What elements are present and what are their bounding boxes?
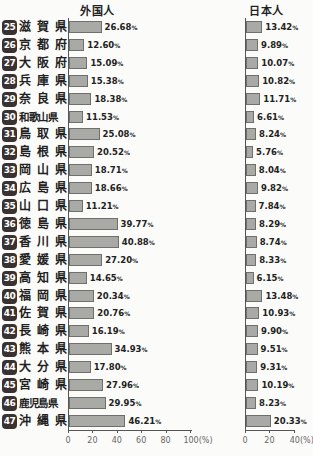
- prefecture-number-badge: 34: [2, 181, 17, 196]
- prefecture-label: 兵庫県: [19, 73, 67, 90]
- prefecture-number-badge: 31: [2, 127, 17, 142]
- foreign-value-label: 17.80%: [94, 361, 127, 374]
- prefecture-number-badge: 29: [2, 92, 17, 107]
- japanese-value-label: 8.04%: [259, 164, 286, 177]
- foreign-value-label: 25.08%: [103, 128, 136, 141]
- axis-tick-mark: [117, 430, 118, 433]
- axis-tick-mark: [190, 430, 191, 433]
- chart-row: 38愛媛県27.20%8.33%: [0, 251, 313, 270]
- prefecture-number-badge: 25: [2, 20, 17, 35]
- prefecture-number-badge: 45: [2, 378, 17, 393]
- prefecture-label: 大分県: [19, 359, 67, 376]
- japanese-value-label: 8.33%: [259, 254, 286, 267]
- foreign-value-label: 14.65%: [90, 272, 123, 285]
- foreign-value-label: 16.19%: [92, 325, 125, 338]
- japanese-bar: [246, 75, 259, 87]
- prefecture-number-badge: 30: [2, 110, 17, 125]
- foreign-bar: [69, 325, 89, 337]
- chart-row: 45宮崎県27.96%10.19%: [0, 376, 313, 395]
- foreign-bar: [69, 397, 106, 409]
- foreign-bar: [69, 218, 118, 230]
- axis-tick-mark: [68, 430, 69, 433]
- japanese-bar: [246, 272, 254, 284]
- japanese-value-label: 13.48%: [265, 290, 298, 303]
- foreign-value-label: 46.21%: [128, 415, 161, 428]
- japanese-bar: [246, 182, 258, 194]
- foreign-y-axis: [68, 18, 69, 430]
- japanese-bar: [246, 93, 260, 105]
- axis-tick-mark: [141, 430, 142, 433]
- foreign-value-label: 20.76%: [97, 307, 130, 320]
- foreign-value-label: 18.66%: [95, 182, 128, 195]
- foreign-bar: [69, 146, 94, 158]
- foreign-bar: [69, 307, 94, 319]
- japanese-value-label: 13.42%: [265, 21, 298, 34]
- prefecture-number-badge: 35: [2, 199, 17, 214]
- foreign-bar: [69, 415, 125, 427]
- chart-row: 25滋賀県26.68%13.42%: [0, 18, 313, 37]
- axis-tick-label: 100(%): [183, 436, 212, 445]
- foreign-bar: [69, 200, 83, 212]
- japanese-value-label: 11.71%: [263, 93, 296, 106]
- foreign-value-label: 11.21%: [86, 200, 119, 213]
- japanese-bar: [246, 325, 258, 337]
- japanese-value-label: 9.51%: [261, 343, 288, 356]
- foreign-bar: [69, 75, 88, 87]
- prefecture-label: 福岡県: [19, 288, 67, 305]
- japanese-value-label: 8.24%: [259, 128, 286, 141]
- japanese-value-label: 8.29%: [259, 218, 286, 231]
- prefecture-number-badge: 32: [2, 145, 17, 160]
- prefecture-label: 長崎県: [19, 323, 67, 340]
- foreign-bar: [69, 57, 87, 69]
- axis-tick-label: 0: [242, 436, 247, 445]
- japanese-bar: [246, 236, 257, 248]
- japanese-value-label: 9.90%: [261, 325, 288, 338]
- foreign-value-label: 27.20%: [105, 254, 138, 267]
- foreign-value-label: 39.77%: [121, 218, 154, 231]
- foreign-bar: [69, 128, 100, 140]
- foreign-value-label: 15.38%: [91, 75, 124, 88]
- prefecture-label: 奈良県: [19, 91, 67, 108]
- prefecture-label: 徳島県: [19, 216, 67, 233]
- chart-row: 47沖縄県46.21%20.33%: [0, 412, 313, 431]
- japanese-bar: [246, 415, 271, 427]
- foreign-value-label: 34.93%: [115, 343, 148, 356]
- japanese-value-label: 20.33%: [274, 415, 307, 428]
- japanese-bar: [246, 343, 258, 355]
- axis-tick-label: 60: [136, 436, 146, 445]
- japanese-bar: [246, 397, 256, 409]
- chart-row: 31鳥取県25.08%8.24%: [0, 125, 313, 144]
- japanese-bar: [246, 39, 258, 51]
- foreign-value-label: 18.38%: [94, 93, 127, 106]
- japanese-bar: [246, 307, 259, 319]
- prefecture-label: 高知県: [19, 270, 67, 287]
- foreign-bar: [69, 272, 87, 284]
- japanese-value-label: 5.76%: [256, 146, 283, 159]
- prefecture-number-badge: 37: [2, 235, 17, 250]
- prefecture-label: 鹿児島県: [19, 395, 67, 412]
- chart-row: 32島根県20.52%5.76%: [0, 143, 313, 162]
- chart-row: 39高知県14.65%6.15%: [0, 269, 313, 288]
- prefecture-number-badge: 38: [2, 253, 17, 268]
- chart-row: 26京都府12.60%9.89%: [0, 36, 313, 55]
- japanese-value-label: 10.19%: [261, 379, 294, 392]
- chart-row: 36徳島県39.77%8.29%: [0, 215, 313, 234]
- prefecture-number-badge: 40: [2, 289, 17, 304]
- foreign-bar: [69, 343, 112, 355]
- foreign-value-label: 12.60%: [87, 39, 120, 52]
- foreign-value-label: 29.95%: [109, 397, 142, 410]
- prefecture-label: 滋賀県: [19, 19, 67, 36]
- chart-row: 30和歌山県11.53%6.61%: [0, 108, 313, 127]
- foreign-x-axis: [68, 430, 192, 431]
- japanese-bar: [246, 218, 256, 230]
- japanese-chart-title: 日本人: [249, 2, 284, 18]
- japanese-value-label: 9.89%: [261, 39, 288, 52]
- chart-row: 40福岡県20.34%13.48%: [0, 287, 313, 306]
- prefecture-label: 鳥取県: [19, 126, 67, 143]
- axis-tick-label: 40(%): [290, 436, 313, 445]
- foreign-value-label: 15.09%: [90, 57, 123, 70]
- chart-row: 42長崎県16.19%9.90%: [0, 322, 313, 341]
- prefecture-number-badge: 43: [2, 342, 17, 357]
- prefecture-number-badge: 41: [2, 306, 17, 321]
- chart-row: 33岡山県18.71%8.04%: [0, 161, 313, 180]
